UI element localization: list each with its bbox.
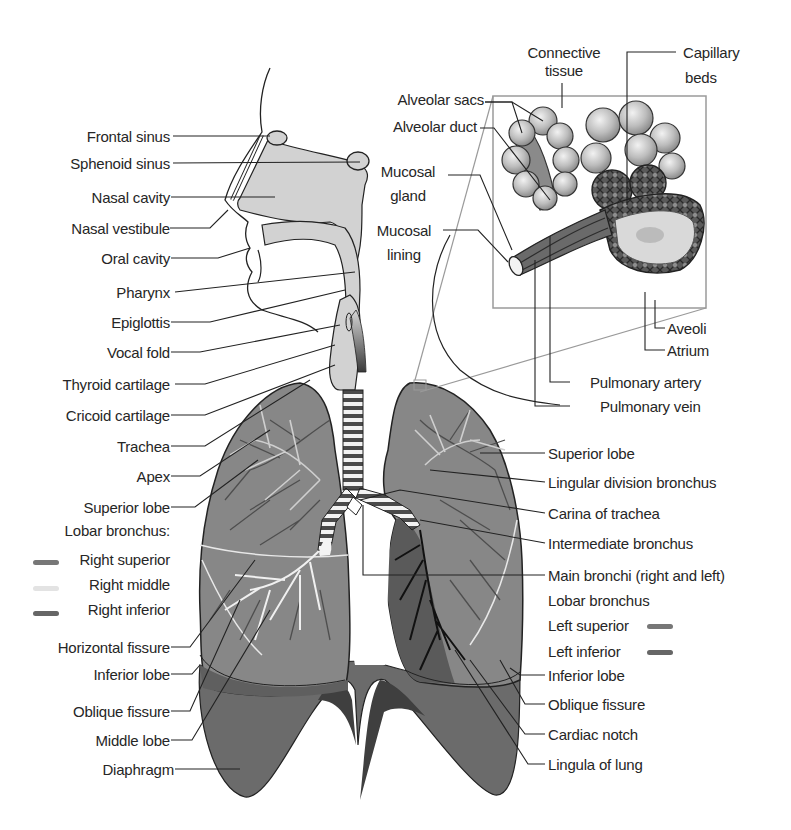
label-lobar-bronchus-left: Lobar bronchus bbox=[548, 592, 649, 609]
label-pulmonary-vein: Pulmonary vein bbox=[600, 398, 701, 415]
tongue-line bbox=[258, 250, 261, 282]
label-mucosal-gland-line1: Mucosal bbox=[372, 163, 444, 180]
label-connective-tissue-line2: tissue bbox=[522, 62, 606, 79]
label-pharynx: Pharynx bbox=[116, 284, 170, 301]
sphenoid-sinus-shape bbox=[347, 152, 369, 170]
legend-swatch-right-middle bbox=[33, 586, 59, 591]
label-oblique-fissure-right: Oblique fissure bbox=[73, 703, 170, 720]
label-atrium: Atrium bbox=[667, 342, 709, 359]
trachea-shape bbox=[343, 390, 363, 490]
label-right-superior: Right superior bbox=[79, 551, 170, 568]
label-sphenoid-sinus: Sphenoid sinus bbox=[70, 155, 170, 172]
label-cricoid-cartilage: Cricoid cartilage bbox=[66, 407, 170, 424]
label-pulmonary-artery: Pulmonary artery bbox=[590, 374, 701, 391]
label-lingular-division-bronchus: Lingular division bronchus bbox=[548, 474, 716, 491]
label-middle-lobe: Middle lobe bbox=[95, 732, 170, 749]
label-horizontal-fissure: Horizontal fissure bbox=[58, 639, 170, 656]
label-mucosal-gland-line2: gland bbox=[372, 187, 444, 204]
label-epiglottis: Epiglottis bbox=[111, 314, 170, 331]
label-right-inferior: Right inferior bbox=[88, 601, 170, 618]
alveolar-sacs-right bbox=[581, 101, 685, 179]
label-capillary-beds-line2: beds bbox=[685, 69, 717, 86]
label-diaphragm: Diaphragm bbox=[102, 761, 174, 778]
label-carina-of-trachea: Carina of trachea bbox=[548, 505, 660, 522]
label-aveoli: Aveoli bbox=[667, 320, 706, 337]
label-intermediate-bronchus: Intermediate bronchus bbox=[548, 535, 693, 552]
label-apex: Apex bbox=[137, 468, 170, 485]
label-connective-tissue-line1: Connective bbox=[522, 44, 606, 61]
label-mucosal-lining-line2: lining bbox=[368, 246, 440, 263]
label-left-inferior: Left inferior bbox=[548, 643, 620, 660]
label-trachea: Trachea bbox=[117, 438, 170, 455]
label-cardiac-notch: Cardiac notch bbox=[548, 726, 638, 743]
label-main-bronchi: Main bronchi (right and left) bbox=[548, 567, 725, 584]
legend-swatch-left-inferior bbox=[647, 650, 673, 655]
label-capillary-beds-line1: Capillary bbox=[683, 44, 740, 61]
legend-swatch-left-superior bbox=[647, 624, 673, 629]
legend-swatch-right-inferior bbox=[33, 611, 59, 616]
label-mucosal-lining-line1: Mucosal bbox=[368, 222, 440, 239]
alveolar-sacs-left bbox=[502, 107, 579, 210]
label-oral-cavity: Oral cavity bbox=[101, 250, 170, 267]
label-frontal-sinus: Frontal sinus bbox=[87, 128, 170, 145]
label-vocal-fold: Vocal fold bbox=[107, 344, 170, 361]
label-superior-lobe-right: Superior lobe bbox=[83, 499, 170, 516]
label-right-middle: Right middle bbox=[89, 576, 170, 593]
label-inferior-lobe-left: Inferior lobe bbox=[548, 667, 625, 684]
label-lobar-bronchus-right: Lobar bronchus: bbox=[65, 522, 170, 539]
legend-swatch-right-superior bbox=[33, 560, 59, 565]
capillary-cluster bbox=[592, 165, 704, 273]
respiratory-diagram: Frontal sinus Sphenoid sinus Nasal cavit… bbox=[0, 0, 791, 830]
label-alveolar-sacs: Alveolar sacs bbox=[397, 91, 484, 108]
label-left-superior: Left superior bbox=[548, 617, 629, 634]
label-nasal-cavity: Nasal cavity bbox=[92, 189, 170, 206]
label-inferior-lobe-right: Inferior lobe bbox=[93, 666, 170, 683]
label-thyroid-cartilage: Thyroid cartilage bbox=[63, 376, 170, 393]
label-oblique-fissure-left: Oblique fissure bbox=[548, 696, 645, 713]
mediastinum bbox=[350, 500, 392, 665]
frontal-sinus-shape bbox=[267, 131, 287, 145]
label-nasal-vestibule: Nasal vestibule bbox=[71, 220, 170, 237]
label-lingula-of-lung: Lingula of lung bbox=[548, 756, 643, 773]
label-superior-lobe-left: Superior lobe bbox=[548, 445, 635, 462]
bronchiole-tube bbox=[512, 210, 612, 275]
label-alveolar-duct: Alveolar duct bbox=[393, 118, 477, 135]
